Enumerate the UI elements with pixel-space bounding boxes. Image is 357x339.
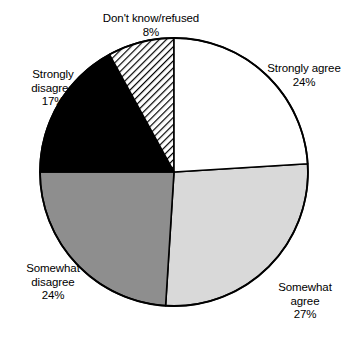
pie-label-somewhat-disagree: Somewhat disagree 24% bbox=[2, 262, 104, 303]
pie-chart-figure: Don't know/refused 8% Strongly agree 24%… bbox=[0, 0, 357, 339]
pie-label-dont-know-refused: Don't know/refused 8% bbox=[78, 12, 224, 39]
pie-label-somewhat-agree: Somewhat agree 27% bbox=[258, 281, 352, 322]
pie-label-strongly-agree: Strongly agree 24% bbox=[256, 62, 352, 89]
pie-label-strongly-disagree: Strongly disagree 17% bbox=[6, 68, 100, 109]
pie-slice-strongly-agree bbox=[174, 38, 308, 172]
